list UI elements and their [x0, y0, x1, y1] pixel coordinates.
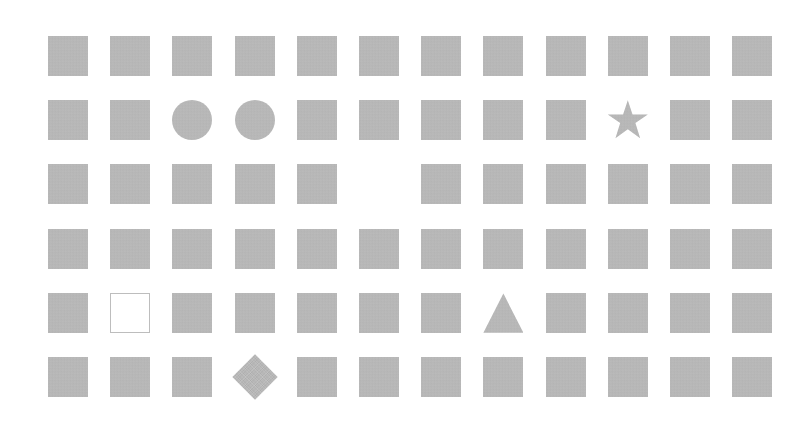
grid-cell[interactable] — [608, 164, 648, 204]
grid-cell[interactable] — [670, 100, 710, 140]
grid-cell[interactable] — [359, 100, 399, 140]
filled-square-icon — [297, 36, 337, 76]
grid-cell[interactable] — [297, 36, 337, 76]
grid-cell[interactable] — [608, 100, 648, 140]
grid-cell[interactable] — [235, 164, 275, 204]
grid-cell[interactable] — [48, 100, 88, 140]
grid-cell[interactable] — [172, 36, 212, 76]
filled-square-icon — [172, 293, 212, 333]
grid-cell[interactable] — [608, 229, 648, 269]
grid-cell[interactable] — [546, 100, 586, 140]
filled-square-icon — [608, 293, 648, 333]
grid-cell[interactable] — [110, 357, 150, 397]
grid-cell[interactable] — [670, 229, 710, 269]
grid-cell[interactable] — [732, 36, 772, 76]
grid-cell[interactable] — [546, 293, 586, 333]
grid-cell[interactable] — [235, 100, 275, 140]
grid-cell[interactable] — [670, 164, 710, 204]
grid-cell[interactable] — [732, 100, 772, 140]
grid-cell[interactable] — [110, 229, 150, 269]
grid-cell[interactable] — [608, 357, 648, 397]
grid-cell[interactable] — [483, 357, 523, 397]
grid-cell[interactable] — [235, 357, 275, 397]
grid-cell[interactable] — [235, 36, 275, 76]
grid-cell[interactable] — [546, 36, 586, 76]
filled-square-icon — [421, 164, 461, 204]
grid-cell[interactable] — [297, 229, 337, 269]
grid-cell[interactable] — [732, 164, 772, 204]
grid-cell[interactable] — [359, 293, 399, 333]
grid-cell[interactable] — [732, 229, 772, 269]
shape-grid — [0, 0, 809, 445]
filled-square-icon — [110, 164, 150, 204]
filled-square-icon — [48, 100, 88, 140]
grid-cell[interactable] — [608, 36, 648, 76]
grid-cell[interactable] — [297, 357, 337, 397]
grid-cell[interactable] — [546, 357, 586, 397]
filled-star-icon — [608, 100, 648, 140]
grid-cell[interactable] — [172, 357, 212, 397]
grid-cell[interactable] — [48, 164, 88, 204]
grid-cell[interactable] — [172, 293, 212, 333]
grid-cell[interactable] — [546, 229, 586, 269]
filled-square-icon — [172, 229, 212, 269]
filled-square-icon — [732, 36, 772, 76]
grid-cell[interactable] — [359, 357, 399, 397]
grid-cell[interactable] — [483, 100, 523, 140]
filled-square-icon — [608, 229, 648, 269]
grid-cell[interactable] — [110, 293, 150, 333]
grid-cell[interactable] — [483, 293, 523, 333]
filled-square-icon — [732, 229, 772, 269]
empty-cell-icon — [359, 164, 399, 204]
grid-cell[interactable] — [48, 357, 88, 397]
filled-square-icon — [359, 293, 399, 333]
filled-square-icon — [483, 229, 523, 269]
filled-square-icon — [546, 229, 586, 269]
filled-square-icon — [235, 293, 275, 333]
grid-cell[interactable] — [359, 164, 399, 204]
grid-cell[interactable] — [110, 100, 150, 140]
filled-square-icon — [110, 36, 150, 76]
grid-cell[interactable] — [670, 357, 710, 397]
filled-triangle-icon — [483, 293, 523, 333]
grid-cell[interactable] — [421, 357, 461, 397]
grid-cell[interactable] — [110, 36, 150, 76]
grid-cell[interactable] — [48, 36, 88, 76]
grid-cell[interactable] — [546, 164, 586, 204]
grid-cell[interactable] — [110, 164, 150, 204]
filled-circle-icon — [235, 100, 275, 140]
grid-cell[interactable] — [421, 293, 461, 333]
grid-cell[interactable] — [421, 36, 461, 76]
filled-square-icon — [732, 164, 772, 204]
grid-cell[interactable] — [48, 293, 88, 333]
grid-cell[interactable] — [48, 229, 88, 269]
filled-square-icon — [359, 229, 399, 269]
grid-cell[interactable] — [421, 100, 461, 140]
grid-cell[interactable] — [421, 164, 461, 204]
grid-cell[interactable] — [172, 164, 212, 204]
grid-cell[interactable] — [172, 229, 212, 269]
grid-cell[interactable] — [483, 36, 523, 76]
grid-cell[interactable] — [297, 100, 337, 140]
grid-cell[interactable] — [421, 229, 461, 269]
grid-cell[interactable] — [235, 229, 275, 269]
grid-cell[interactable] — [732, 357, 772, 397]
grid-cell[interactable] — [670, 36, 710, 76]
filled-square-icon — [48, 164, 88, 204]
grid-cell[interactable] — [172, 100, 212, 140]
grid-cell[interactable] — [732, 293, 772, 333]
filled-diamond-icon — [232, 354, 277, 399]
grid-cell[interactable] — [235, 293, 275, 333]
filled-square-icon — [732, 357, 772, 397]
grid-cell[interactable] — [297, 164, 337, 204]
filled-square-icon — [483, 36, 523, 76]
grid-cell[interactable] — [483, 164, 523, 204]
grid-cell[interactable] — [297, 293, 337, 333]
grid-cell[interactable] — [670, 293, 710, 333]
grid-cell[interactable] — [483, 229, 523, 269]
grid-cell[interactable] — [359, 36, 399, 76]
filled-square-icon — [670, 357, 710, 397]
grid-cell[interactable] — [359, 229, 399, 269]
filled-square-icon — [483, 357, 523, 397]
grid-cell[interactable] — [608, 293, 648, 333]
